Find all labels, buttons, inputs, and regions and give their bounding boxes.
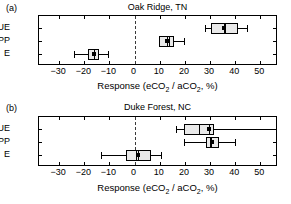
panel-letter-a: (a)	[6, 3, 17, 13]
row-label-npp: NPP	[0, 137, 10, 146]
x-tick-bottom	[235, 162, 236, 165]
axis-title-mid: / aCO	[169, 182, 196, 193]
x-tick-bottom	[59, 162, 60, 165]
x-tick-bottom	[260, 61, 261, 64]
x-tick-top	[59, 16, 60, 19]
x-tick-top	[185, 117, 186, 120]
boxplot-figure: (a) Oak Ridge, TN −30−20−1001020304050 R…	[0, 0, 291, 204]
x-tick-bottom	[84, 61, 85, 64]
whisker-cap-high	[161, 152, 162, 159]
x-tick-top	[109, 16, 110, 19]
x-tick-label: 50	[244, 66, 274, 77]
whisker-cap-low	[205, 25, 206, 32]
x-tick-top	[210, 16, 211, 19]
whisker-cap-low	[176, 126, 177, 133]
x-tick-top	[260, 16, 261, 19]
y-tick-right	[273, 54, 276, 55]
x-tick-bottom	[109, 61, 110, 64]
x-tick-top	[59, 117, 60, 120]
whisker-low	[101, 155, 126, 156]
whisker-cap-low	[184, 139, 185, 146]
x-tick-top	[210, 117, 211, 120]
x-tick-top	[84, 16, 85, 19]
x-tick-top	[185, 16, 186, 19]
whisker-high	[151, 155, 161, 156]
x-tick-bottom	[185, 162, 186, 165]
axis-title-mid: / aCO	[169, 80, 196, 91]
x-axis-title-a: Response (eCO2 / aCO2, %)	[38, 80, 277, 96]
x-tick-top	[260, 117, 261, 120]
x-tick-bottom	[109, 162, 110, 165]
x-tick-bottom	[84, 162, 85, 165]
x-tick-labels-b: −30−20−1001020304050	[0, 167, 291, 179]
x-tick-bottom	[160, 61, 161, 64]
y-tick-left	[39, 54, 42, 55]
axis-title-suffix: , %)	[201, 80, 218, 91]
x-tick-top	[235, 16, 236, 19]
row-label-wue: WUE	[0, 124, 10, 133]
y-tick-right	[273, 28, 276, 29]
zero-reference-line	[135, 16, 136, 64]
whisker-cap-low	[74, 51, 75, 58]
axis-title-prefix: Response (eCO	[97, 182, 165, 193]
mean-marker	[207, 127, 211, 131]
y-tick-left	[39, 142, 42, 143]
x-tick-label: 50	[244, 167, 274, 178]
x-tick-top	[84, 117, 85, 120]
whisker-cap-high	[247, 25, 248, 32]
row-label-npp: NPP	[0, 36, 10, 45]
x-tick-bottom	[185, 61, 186, 64]
whisker-low	[176, 129, 184, 130]
whisker-cap-high	[108, 51, 109, 58]
x-tick-bottom	[59, 61, 60, 64]
x-tick-bottom	[235, 61, 236, 64]
x-tick-top	[109, 117, 110, 120]
x-tick-labels-a: −30−20−1001020304050	[0, 66, 291, 78]
row-label-wue: WUE	[0, 23, 10, 32]
plot-area-b	[38, 116, 277, 166]
whisker-low	[184, 142, 207, 143]
y-tick-right	[273, 41, 276, 42]
whisker-cap-high	[235, 139, 236, 146]
panel-oak-ridge: (a) Oak Ridge, TN −30−20−1001020304050 R…	[0, 0, 291, 102]
x-tick-top	[160, 117, 161, 120]
mean-marker	[92, 52, 96, 56]
x-tick-bottom	[210, 61, 211, 64]
y-tick-left	[39, 129, 42, 130]
x-tick-bottom	[210, 162, 211, 165]
row-label-e: E	[0, 150, 10, 159]
whisker-high	[219, 142, 235, 143]
whisker-high	[238, 28, 247, 29]
whisker-low	[74, 54, 88, 55]
panel-title-b: Duke Forest, NC	[38, 102, 277, 113]
y-tick-right	[273, 155, 276, 156]
median-line	[199, 124, 200, 135]
y-tick-left	[39, 28, 42, 29]
mean-marker	[165, 39, 169, 43]
whisker-high	[214, 129, 277, 130]
mean-marker	[210, 140, 214, 144]
whisker-high	[174, 41, 184, 42]
row-label-e: E	[0, 49, 10, 58]
whisker-high	[99, 54, 108, 55]
axis-title-prefix: Response (eCO	[97, 80, 165, 91]
panel-title-a: Oak Ridge, TN	[38, 2, 277, 13]
x-tick-bottom	[260, 162, 261, 165]
x-axis-title-b: Response (eCO2 / aCO2, %)	[38, 182, 277, 198]
mean-marker	[136, 153, 140, 157]
y-tick-left	[39, 155, 42, 156]
x-tick-top	[235, 117, 236, 120]
y-tick-left	[39, 41, 42, 42]
panel-letter-b: (b)	[6, 103, 17, 113]
mean-marker	[222, 26, 226, 30]
y-tick-right	[273, 142, 276, 143]
axis-title-suffix: , %)	[201, 182, 218, 193]
x-tick-bottom	[160, 162, 161, 165]
plot-area-a	[38, 15, 277, 65]
median-line	[169, 36, 170, 47]
x-tick-top	[160, 16, 161, 19]
panel-duke-forest: (b) Duke Forest, NC −30−20−1001020304050…	[0, 100, 291, 204]
whisker-cap-high	[184, 38, 185, 45]
whisker-cap-low	[101, 152, 102, 159]
